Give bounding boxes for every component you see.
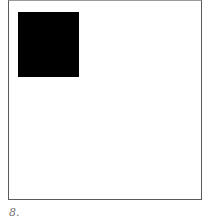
figure-caption: 8. (9, 206, 20, 219)
black-square (18, 12, 79, 77)
figure-frame (8, 0, 202, 200)
